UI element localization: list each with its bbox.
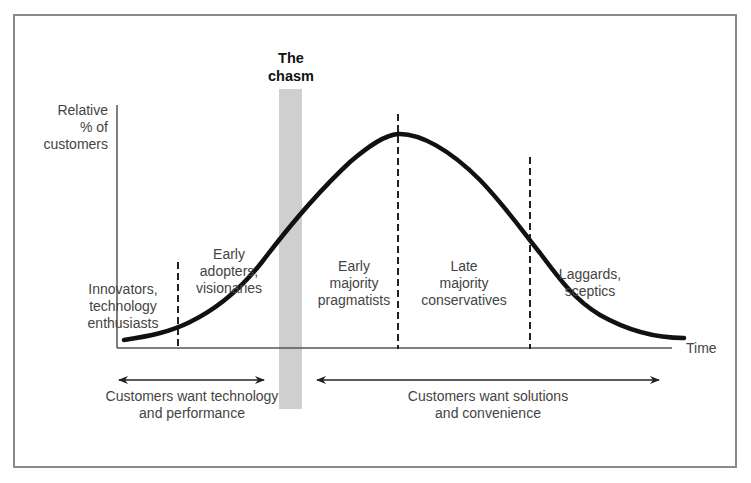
caption-line: Customers want solutions [390,388,586,405]
chasm-title: The chasm [258,49,324,85]
segment-line: Innovators, [78,281,168,298]
caption-line: Customers want technology [94,388,290,405]
caption-technology: Customers want technology and performanc… [94,388,290,422]
chasm-title-line1: The [258,49,324,67]
segment-line: conservatives [414,292,514,309]
segment-line: Late [414,258,514,275]
chasm-title-line2: chasm [258,67,324,85]
chasm-bar [279,89,302,409]
x-axis-label: Time [686,340,717,357]
segment-line: adopters, [188,263,270,280]
segment-line: sceptics [552,283,628,300]
caption-line: and performance [94,405,290,422]
y-axis-label-line: % of [30,119,108,136]
segment-laggards: Laggards, sceptics [552,266,628,300]
y-axis-label: Relative % of customers [30,102,108,153]
segment-line: pragmatists [306,292,402,309]
segment-line: enthusiasts [78,315,168,332]
y-axis-label-line: Relative [30,102,108,119]
segment-line: majority [306,275,402,292]
segment-early-majority: Early majority pragmatists [306,258,402,309]
caption-solutions: Customers want solutions and convenience [390,388,586,422]
segment-early-adopters: Early adopters, visionaries [188,246,270,297]
segment-line: Early [306,258,402,275]
segment-innovators: Innovators, technology enthusiasts [78,281,168,332]
y-axis-label-line: customers [30,136,108,153]
adoption-curve [124,134,684,340]
segment-line: technology [78,298,168,315]
caption-line: and convenience [390,405,586,422]
segment-line: Early [188,246,270,263]
segment-line: Laggards, [552,266,628,283]
segment-line: majority [414,275,514,292]
segment-late-majority: Late majority conservatives [414,258,514,309]
segment-line: visionaries [188,280,270,297]
